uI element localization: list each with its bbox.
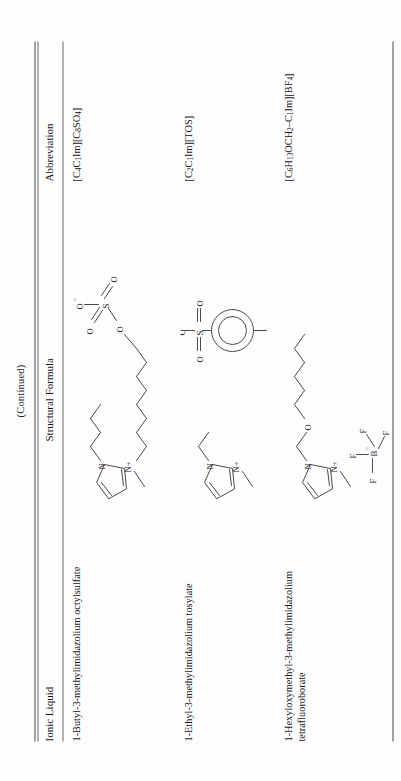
table-row: 1-Butyl-3-methylimidazolium octylsulfate… [68, 41, 180, 741]
structural-formula-cell: N N+ [68, 186, 180, 516]
column-header-structural-formula: Structural Formula [42, 358, 54, 441]
svg-text:O: O [180, 329, 186, 335]
ionic-liquid-name: 1-Hexyloxymethyl-3-methylimidazolium tet… [282, 526, 307, 741]
svg-text:N: N [204, 463, 214, 469]
hexyloxymethyl-methylimidazolium-tetrafluoroborate-structure: N N+ O B [280, 186, 392, 516]
table-bottom-rule [392, 41, 393, 741]
svg-text:F: F [380, 430, 390, 435]
svg-text:N: N [96, 463, 106, 469]
svg-text:O: O [194, 300, 204, 306]
abbreviation-value: [C6H13OCH2–C1Im][BF4] [282, 16, 294, 181]
continued-note: (Continued) [14, 0, 25, 781]
svg-text:N+: N+ [328, 461, 338, 472]
column-header-abbreviation: Abbreviation [42, 123, 54, 181]
ionic-liquid-name: 1-Ethyl-3-methylimidazolium tosylate [182, 526, 195, 741]
ethyl-methylimidazolium-tosylate-structure: N N+ S [180, 186, 280, 516]
svg-text:−: − [70, 297, 78, 301]
svg-text:O: O [84, 328, 94, 334]
table-top-rule-2 [37, 41, 38, 741]
svg-text:N+: N+ [122, 461, 132, 472]
svg-text:F: F [347, 453, 357, 458]
svg-text:O: O [74, 303, 84, 309]
svg-text:N: N [302, 463, 312, 469]
structural-formula-cell: N N+ O B [280, 186, 392, 516]
svg-text:B: B [368, 450, 378, 456]
table-header-row: Ionic Liquid Structural Formula Abbrevia… [40, 41, 60, 741]
table-top-rule [34, 41, 35, 741]
ionic-liquid-name: 1-Butyl-3-methylimidazolium octylsulfate [70, 526, 83, 741]
svg-text:−: − [180, 323, 181, 327]
abbreviation-value: [C4C1Im][C8SO4] [70, 16, 82, 181]
structural-formula-cell: N N+ S [180, 186, 280, 516]
table-row: 1-Hexyloxymethyl-3-methylimidazolium tet… [280, 41, 392, 741]
butyl-methylimidazolium-octylsulfate-structure: N N+ [68, 186, 180, 516]
column-header-ionic-liquid: Ionic Liquid [42, 686, 54, 741]
table-row: 1-Ethyl-3-methylimidazolium tosylate [C2… [180, 41, 280, 741]
document-page: (Continued) Ionic Liquid Structural Form… [0, 0, 401, 781]
header-underline-rule [62, 41, 63, 741]
svg-text:O: O [114, 326, 124, 332]
svg-text:S: S [100, 303, 110, 308]
svg-text:N+: N+ [230, 461, 240, 472]
rotated-page-content: (Continued) Ionic Liquid Structural Form… [0, 0, 401, 781]
svg-text:O: O [108, 276, 118, 282]
svg-text:−: − [362, 446, 370, 450]
svg-text:F: F [367, 478, 377, 483]
abbreviation-value: [C2C1Im][TOS] [182, 16, 194, 181]
svg-text:O: O [302, 424, 312, 430]
svg-text:F: F [357, 428, 367, 433]
svg-text:O: O [194, 356, 204, 362]
svg-text:S: S [194, 330, 204, 335]
